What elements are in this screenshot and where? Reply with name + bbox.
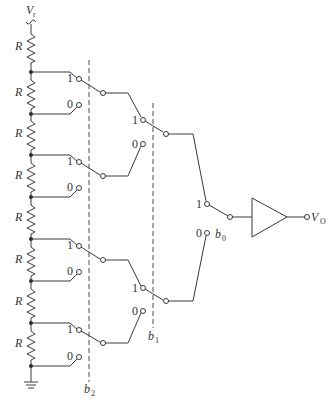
b2-label: b 2 bbox=[84, 382, 95, 398]
svg-text:0: 0 bbox=[132, 304, 138, 318]
svg-text:V: V bbox=[311, 210, 320, 224]
svg-text:R: R bbox=[14, 85, 23, 99]
svg-text:1: 1 bbox=[132, 281, 138, 295]
reference-voltage-label: V r bbox=[26, 3, 36, 19]
buffer-amplifier-icon bbox=[232, 198, 310, 237]
svg-text:R: R bbox=[14, 336, 23, 350]
svg-text:1: 1 bbox=[67, 71, 73, 85]
ground-icon bbox=[24, 382, 38, 388]
svg-text:1: 1 bbox=[132, 113, 138, 127]
svg-text:b: b bbox=[84, 382, 90, 396]
resistor-ladder bbox=[27, 24, 35, 382]
svg-text:1: 1 bbox=[67, 154, 73, 168]
svg-text:R: R bbox=[14, 168, 23, 182]
svg-text:R: R bbox=[14, 252, 23, 266]
svg-text:O: O bbox=[320, 217, 326, 226]
svg-text:1: 1 bbox=[67, 322, 73, 336]
b1-label: b 1 bbox=[148, 329, 159, 345]
dac-circuit-diagram: V r R R R R R R R R bbox=[0, 0, 334, 402]
switch-b2-d: 1 0 bbox=[31, 322, 106, 366]
b0-label: b 0 bbox=[215, 227, 226, 243]
svg-text:0: 0 bbox=[132, 137, 138, 151]
reference-terminal-icon bbox=[26, 20, 36, 24]
output-voltage-label: V O bbox=[311, 210, 326, 226]
svg-text:R: R bbox=[14, 39, 23, 53]
svg-text:1: 1 bbox=[67, 238, 73, 252]
svg-text:1: 1 bbox=[196, 197, 202, 211]
svg-text:0: 0 bbox=[67, 180, 73, 194]
svg-text:0: 0 bbox=[67, 349, 73, 363]
svg-text:1: 1 bbox=[155, 336, 159, 345]
svg-text:0: 0 bbox=[222, 234, 226, 243]
svg-text:0: 0 bbox=[196, 226, 202, 240]
switch-b2-c: 1 0 bbox=[31, 238, 106, 281]
switch-b2-a: 1 0 bbox=[31, 71, 106, 114]
svg-text:R: R bbox=[14, 294, 23, 308]
switch-b2-b: 1 0 bbox=[31, 154, 106, 197]
svg-text:2: 2 bbox=[91, 389, 95, 398]
svg-text:R: R bbox=[14, 210, 23, 224]
switch-b1-b: 1 0 bbox=[105, 260, 169, 343]
svg-text:0: 0 bbox=[67, 97, 73, 111]
svg-text:b: b bbox=[215, 227, 221, 241]
svg-text:R: R bbox=[14, 126, 23, 140]
svg-text:0: 0 bbox=[67, 264, 73, 278]
svg-text:r: r bbox=[33, 10, 36, 19]
svg-text:b: b bbox=[148, 329, 154, 343]
resistor-labels: R R R R R R R R bbox=[14, 39, 23, 350]
switch-b0: 1 0 bbox=[168, 134, 233, 301]
switch-b1-a: 1 0 bbox=[105, 93, 169, 176]
